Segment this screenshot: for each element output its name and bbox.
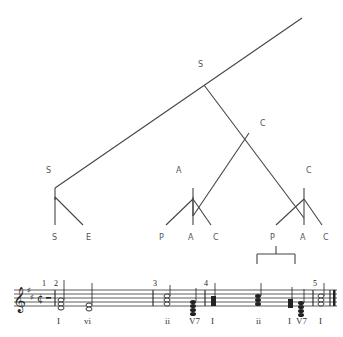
chord (255, 283, 261, 306)
chord (190, 288, 196, 316)
roman-numeral: ii (256, 316, 262, 326)
spine-line (55, 18, 302, 188)
measure-number: 5 (313, 279, 317, 288)
chord (298, 289, 304, 317)
roman-numeral: V7 (189, 316, 200, 326)
measure-number: 2 (54, 279, 58, 288)
measure-number: 4 (204, 279, 208, 288)
node-label-s-left: S (46, 166, 51, 175)
roman-numeral: I (288, 316, 291, 326)
chord (58, 280, 64, 310)
tree-diagram: S C S A C S E P A C P A C 𝄞 ♯ ♯ ¢ 1 2 3 … (0, 0, 343, 337)
chord (86, 283, 92, 311)
leaf-right-c: C (323, 233, 329, 242)
right-leaf-c-line (304, 199, 322, 225)
leaf-right-a: A (300, 233, 306, 242)
measure-number: 3 (153, 279, 157, 288)
leaf-mid-p: P (159, 233, 164, 242)
roman-numeral: I (211, 316, 214, 326)
leaf-mid-a: A (188, 233, 194, 242)
branch-c-to-a (193, 133, 249, 216)
left-leaf-e-line (55, 197, 83, 225)
node-label-root: S (198, 60, 203, 69)
node-label-c-right: C (306, 166, 312, 175)
leaf-left-e: E (86, 233, 91, 242)
leaf-mid-c: C (213, 233, 219, 242)
roman-numeral: I (319, 316, 322, 326)
leaf-left-s: S (52, 233, 57, 242)
treble-clef-icon: 𝄞 (13, 287, 26, 313)
final-barline-thick (333, 290, 336, 306)
chord (318, 283, 324, 306)
node-label-c-mid: C (260, 119, 266, 128)
leaf-right-p: P (270, 233, 275, 242)
roman-numeral: ii (165, 316, 171, 326)
cut-time-icon: ¢ (37, 293, 43, 304)
mid-leaf-p-line (166, 199, 193, 225)
chord (211, 283, 216, 306)
branch-s-to-c (204, 85, 304, 218)
roman-numeral: V7 (296, 316, 307, 326)
measure-number: 1 (42, 279, 46, 288)
roman-numeral: I (57, 316, 60, 326)
roman-numeral: vi (84, 316, 92, 326)
node-label-a-mid: A (176, 166, 182, 175)
half-rest-icon (46, 297, 51, 299)
chord (164, 285, 170, 306)
sharp-icon: ♯ (30, 293, 34, 302)
